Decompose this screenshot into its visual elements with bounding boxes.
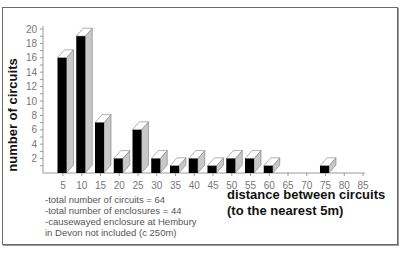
bar-front-face (226, 159, 235, 173)
y-axis-label-text: number of circuits (5, 58, 20, 171)
bar-front-face (320, 166, 329, 173)
y-tick-label: 18 (26, 38, 38, 49)
x-axis-label-line-2: (to the nearest 5m) (227, 203, 385, 219)
bar-front-face (58, 58, 67, 173)
bar-front-face (245, 159, 254, 173)
y-tick-label: 2 (31, 153, 37, 164)
note-total-enclosures: -total number of enclosures = 44 (45, 205, 197, 216)
x-axis-label-line-1: distance between circuits (227, 187, 385, 203)
x-tick-label: 40 (189, 180, 201, 191)
y-tick-label: 10 (26, 96, 38, 107)
chart-notes: -total number of circuits = 64 -total nu… (45, 194, 197, 238)
bar-front-face (264, 166, 273, 173)
x-tick-label: 25 (132, 180, 144, 191)
y-tick-label: 14 (26, 67, 38, 78)
note-hembury-2: in Devon not included (c 250m) (45, 227, 197, 238)
note-hembury-1: -causewayed enclosure at Hembury (45, 216, 197, 227)
bar-side-face (67, 50, 74, 173)
bar-front-face (189, 159, 198, 173)
bar-side-face (85, 28, 92, 173)
x-tick-label: 5 (60, 180, 66, 191)
bar-front-face (95, 123, 104, 173)
bar-front-face (170, 166, 179, 173)
bar-front-face (76, 36, 85, 173)
bar-front-face (151, 159, 160, 173)
y-axis-label: number of circuits (2, 50, 22, 180)
note-total-circuits: -total number of circuits = 64 (45, 194, 197, 205)
y-tick-label: 16 (26, 52, 38, 63)
bar-side-face (142, 122, 149, 173)
y-tick-label: 4 (31, 139, 37, 150)
x-tick-label: 45 (207, 180, 219, 191)
x-tick-label: 35 (170, 180, 182, 191)
y-tick-label: 8 (31, 110, 37, 121)
x-tick-label: 30 (151, 180, 163, 191)
bar-front-face (208, 166, 217, 173)
bar-front-face (114, 159, 123, 173)
x-tick-label: 15 (95, 180, 107, 191)
x-tick-label: 10 (76, 180, 88, 191)
x-axis-label: distance between circuits (to the neares… (227, 187, 385, 219)
bar-side-face (104, 115, 111, 173)
y-tick-label: 6 (31, 124, 37, 135)
bar-front-face (133, 130, 142, 173)
x-tick-label: 20 (114, 180, 126, 191)
y-tick-label: 20 (26, 24, 38, 35)
y-tick-label: 12 (26, 81, 38, 92)
